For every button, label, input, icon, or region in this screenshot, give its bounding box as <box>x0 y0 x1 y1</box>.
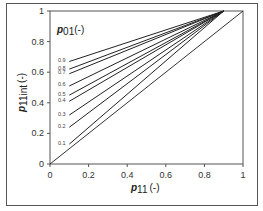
y-tick-label: 1 <box>39 6 44 16</box>
x-tick-label: 0.2 <box>82 170 95 180</box>
series-label: 0.5 <box>58 91 66 97</box>
y-tick-label: 0.2 <box>31 128 44 138</box>
series-label: 0.2 <box>58 123 66 129</box>
series-label: 0.6 <box>58 81 66 87</box>
y-tick-label: 0.4 <box>31 98 44 108</box>
x-tick-label: 0 <box>47 170 52 180</box>
series-label: 0.1 <box>58 140 66 146</box>
y-tick-label: 0.6 <box>31 67 44 77</box>
chart: 00.20.40.60.8100.20.40.60.81 0.90.80.70.… <box>0 0 263 211</box>
x-tick-label: 1 <box>240 170 245 180</box>
series-label: 0.4 <box>58 97 66 103</box>
y-tick-label: 0 <box>39 159 44 169</box>
series-label: 0.3 <box>58 111 66 117</box>
x-tick-label: 0.6 <box>160 170 173 180</box>
series-label: 0.9 <box>58 57 66 63</box>
x-tick-label: 0.4 <box>121 170 134 180</box>
series-label: 0.7 <box>58 69 66 75</box>
x-tick-label: 0.8 <box>198 170 211 180</box>
y-tick-label: 0.8 <box>31 37 44 47</box>
